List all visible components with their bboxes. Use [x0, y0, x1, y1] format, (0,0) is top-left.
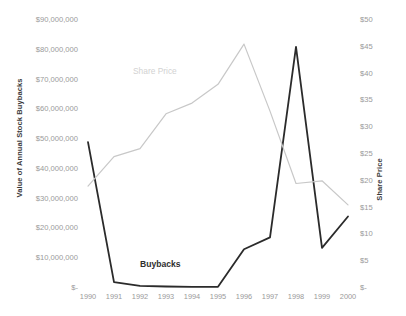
- y-left-tick-5: $50,000,000: [12, 134, 78, 143]
- x-tick-1991: 1991: [101, 292, 127, 301]
- y-right-tick-8: $40: [360, 69, 400, 78]
- series-line-buybacks: [88, 47, 348, 287]
- caption-strip: [4, 308, 304, 316]
- y-left-tick-8: $80,000,000: [12, 45, 78, 54]
- x-tick-2000: 2000: [335, 292, 361, 301]
- chart-container: Value of Annual Stock Buybacks Share Pri…: [0, 0, 406, 316]
- x-tick-1995: 1995: [205, 292, 231, 301]
- series-label-buybacks: Buybacks: [140, 259, 181, 269]
- y-left-tick-1: $10,000,000: [12, 253, 78, 262]
- x-tick-1990: 1990: [75, 292, 101, 301]
- x-tick-1999: 1999: [309, 292, 335, 301]
- y-right-tick-1: $5: [360, 256, 400, 265]
- series-line-share-price: [88, 44, 348, 205]
- x-tick-1998: 1998: [283, 292, 309, 301]
- y-right-tick-9: $45: [360, 42, 400, 51]
- series-label-share-price: Share Price: [133, 66, 177, 76]
- x-tick-1994: 1994: [179, 292, 205, 301]
- y-left-tick-7: $70,000,000: [12, 75, 78, 84]
- x-tick-1993: 1993: [153, 292, 179, 301]
- y-right-tick-3: $15: [360, 203, 400, 212]
- x-tick-1996: 1996: [231, 292, 257, 301]
- y-left-tick-9: $90,000,000: [12, 15, 78, 24]
- y-left-tick-4: $40,000,000: [12, 164, 78, 173]
- y-left-tick-6: $60,000,000: [12, 104, 78, 113]
- y-left-tick-0: $-: [12, 283, 78, 292]
- y-right-tick-10: $50: [360, 15, 400, 24]
- y-right-tick-4: $20: [360, 176, 400, 185]
- y-right-tick-5: $25: [360, 149, 400, 158]
- y-right-tick-2: $10: [360, 229, 400, 238]
- x-tick-1992: 1992: [127, 292, 153, 301]
- y-right-tick-7: $35: [360, 95, 400, 104]
- y-right-tick-0: $-: [360, 283, 400, 292]
- y-left-tick-3: $30,000,000: [12, 194, 78, 203]
- y-right-tick-6: $30: [360, 122, 400, 131]
- x-tick-1997: 1997: [257, 292, 283, 301]
- y-left-tick-2: $20,000,000: [12, 223, 78, 232]
